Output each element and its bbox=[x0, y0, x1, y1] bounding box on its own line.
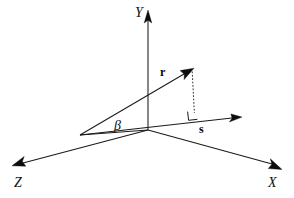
x-axis-line bbox=[148, 130, 272, 164]
r-vector-arrowhead bbox=[180, 68, 194, 79]
vector-diagram-figure: Y X Z r s β bbox=[0, 0, 294, 198]
diagram-canvas bbox=[0, 0, 294, 198]
r-vector bbox=[80, 68, 194, 135]
r-vector-line bbox=[80, 74, 184, 135]
y-axis-label: Y bbox=[135, 6, 143, 20]
s-vector bbox=[80, 114, 242, 135]
beta-angle-label: β bbox=[114, 119, 121, 133]
z-axis bbox=[12, 130, 148, 166]
projection-dashed-line bbox=[192, 72, 194, 114]
x-axis-arrowhead bbox=[268, 159, 282, 170]
z-axis-arrowhead bbox=[12, 156, 26, 166]
right-angle-marker bbox=[188, 112, 198, 121]
s-vector-label: s bbox=[199, 123, 204, 135]
x-axis bbox=[148, 130, 282, 170]
y-axis bbox=[144, 10, 152, 130]
x-axis-label: X bbox=[268, 176, 277, 190]
r-vector-label: r bbox=[160, 66, 165, 78]
z-axis-label: Z bbox=[14, 176, 22, 190]
